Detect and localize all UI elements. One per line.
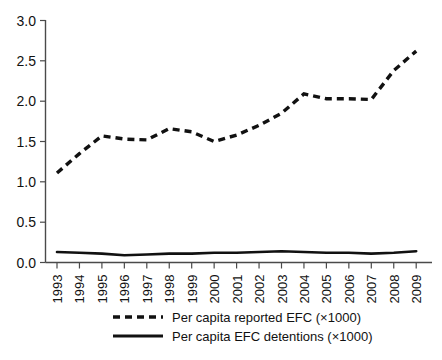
x-tick-label: 2000 [207,275,222,304]
x-tick-label: 1995 [95,275,110,304]
y-tick-label: 2.5 [17,53,37,69]
x-tick-label: 2003 [275,275,290,304]
x-tick-label: 2007 [364,275,379,304]
y-tick-label: 2.0 [17,93,37,109]
legend-label-reported-efc: Per capita reported EFC (×1000) [172,310,361,325]
x-tick-label: 2006 [342,275,357,304]
x-axis-tick-labels: 1993199419951996199719981999200020012002… [50,275,424,304]
x-tick-label: 1998 [162,275,177,304]
x-tick-label: 2002 [252,275,267,304]
y-tick-label: 3.0 [17,13,37,29]
x-tick-label: 1997 [140,275,155,304]
x-tick-label: 2004 [297,275,312,304]
line-chart: 3.0 2.5 2.0 1.5 1.0 0.5 0.0 199319941995… [0,0,442,360]
x-tick-label: 2005 [319,275,334,304]
y-tick-label: 0.0 [17,255,37,271]
chart-figure: 3.0 2.5 2.0 1.5 1.0 0.5 0.0 199319941995… [0,0,442,360]
y-tick-label: 0.5 [17,214,37,230]
x-tick-label: 2009 [409,275,424,304]
x-tick-label: 1996 [117,275,132,304]
y-tick-label: 1.5 [17,134,37,150]
x-tick-label: 1994 [72,275,87,304]
x-tick-label: 1999 [185,275,200,304]
y-tick-label: 1.0 [17,174,37,190]
x-tick-label: 1993 [50,275,65,304]
x-tick-label: 2001 [230,275,245,304]
chart-background [0,0,442,360]
legend-label-efc-detentions: Per capita EFC detentions (×1000) [172,329,373,344]
x-tick-label: 2008 [387,275,402,304]
